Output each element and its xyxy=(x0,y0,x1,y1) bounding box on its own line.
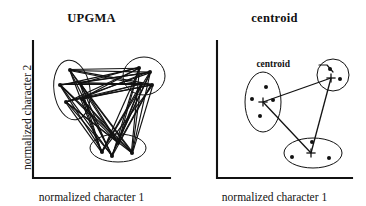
data-point xyxy=(310,140,314,144)
cluster-top-right-cluster xyxy=(123,57,165,95)
data-point xyxy=(68,68,72,72)
data-point xyxy=(100,150,104,154)
linkage-line xyxy=(82,85,152,99)
data-point xyxy=(271,98,275,102)
data-point xyxy=(148,70,152,74)
cluster-boundary-ellipse xyxy=(317,59,349,91)
cluster-bottom-cluster xyxy=(284,138,342,168)
data-point xyxy=(264,85,268,89)
data-point xyxy=(338,77,342,81)
x-axis-label-upgma: normalized character 1 xyxy=(0,191,183,203)
cluster-top-right-cluster xyxy=(317,59,349,91)
centroid-annotation: centroid xyxy=(256,59,333,72)
axis-group-upgma xyxy=(33,41,170,178)
data-point xyxy=(250,97,254,101)
data-point xyxy=(80,97,84,101)
y-axis-label-upgma: normalized character 2 xyxy=(21,65,33,170)
cluster-left-cluster xyxy=(245,72,281,132)
axis-lines-upgma xyxy=(33,41,170,178)
data-point xyxy=(116,141,120,145)
panel-upgma: UPGMA normalized character 2 normalized … xyxy=(0,0,183,206)
data-point xyxy=(64,100,68,104)
centroid-marker xyxy=(326,73,335,82)
centroid-linkage-line xyxy=(263,102,311,153)
data-point xyxy=(139,82,143,86)
data-point xyxy=(150,83,154,87)
linkage-lines-centroid xyxy=(263,78,331,153)
linkage-line xyxy=(70,68,139,69)
cluster-boundary-ellipse xyxy=(123,57,165,95)
data-point xyxy=(78,81,82,85)
data-point xyxy=(130,151,134,155)
data-point xyxy=(58,83,62,87)
panel-centroid: centroid centroid normalized character 1 xyxy=(183,0,366,206)
clustering-comparison-figure: UPGMA normalized character 2 normalized … xyxy=(0,0,366,206)
data-point xyxy=(110,154,114,158)
data-point xyxy=(327,156,331,160)
linkage-lines-upgma xyxy=(60,67,153,156)
plot-area-centroid: centroid xyxy=(183,0,366,206)
x-axis-label-centroid: normalized character 1 xyxy=(183,191,366,203)
data-point xyxy=(258,114,262,118)
centroid-linkage-line xyxy=(311,78,331,153)
data-point xyxy=(137,66,141,70)
data-point xyxy=(290,155,294,159)
annotation-label-centroid: centroid xyxy=(256,59,290,69)
